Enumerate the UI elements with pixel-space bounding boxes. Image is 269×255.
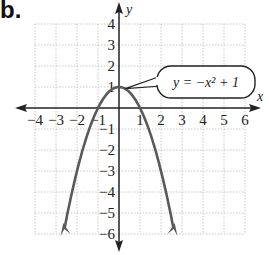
parabola-graph: yx −4−3−2−11234564321−1−2−3−4−5−6 y = −x… — [0, 0, 269, 255]
x-tick-label: 3 — [178, 112, 186, 128]
x-tick-label: 6 — [241, 112, 249, 128]
y-tick-label: 3 — [108, 37, 116, 53]
y-tick-label: −6 — [99, 226, 115, 242]
callout-pointer — [125, 76, 161, 89]
x-tick-label: 4 — [199, 112, 207, 128]
y-tick-label: 4 — [108, 16, 116, 32]
y-tick-label: 2 — [108, 58, 116, 74]
y-tick-label: −5 — [99, 205, 115, 221]
y-tick-label: −3 — [99, 163, 115, 179]
x-tick-label: −3 — [48, 112, 64, 128]
callout-join — [156, 77, 162, 85]
x-tick-label: −2 — [69, 112, 85, 128]
x-tick-label: −4 — [27, 112, 43, 128]
equation-label: y = −x² + 1 — [171, 75, 239, 90]
y-tick-label: −4 — [99, 184, 115, 200]
equation-callout: y = −x² + 1 — [125, 66, 255, 98]
y-tick-label: −1 — [99, 121, 115, 137]
x-tick-label: 5 — [220, 112, 228, 128]
y-tick-label: −2 — [99, 142, 115, 158]
y-axis-label: y — [124, 2, 133, 17]
grid-lines — [35, 24, 245, 234]
x-tick-label: 2 — [157, 112, 165, 128]
x-axis-label: x — [256, 89, 264, 104]
